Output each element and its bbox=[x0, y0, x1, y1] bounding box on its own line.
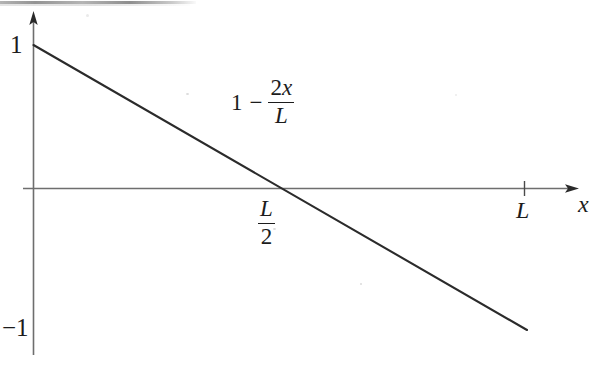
y-axis-label-one: 1 bbox=[10, 32, 23, 57]
equation-lead-term: 1 bbox=[231, 91, 243, 114]
y-axis-label-negative-one: −1 bbox=[2, 315, 29, 340]
figure-canvas: 1 −1 x L L 2 1 − 2x L bbox=[0, 0, 595, 369]
fraction-numerator-coefficient: 2 bbox=[270, 75, 282, 100]
x-tick-label-L: L bbox=[516, 198, 529, 222]
fraction-l-over-2: L 2 bbox=[258, 197, 275, 250]
fraction-denominator: L bbox=[268, 104, 294, 128]
x-axis-variable-label: x bbox=[578, 192, 589, 216]
fraction-2x-over-l: 2x L bbox=[268, 76, 294, 129]
fraction-denominator: 2 bbox=[258, 225, 275, 249]
equation-annotation: 1 − 2x L bbox=[231, 76, 294, 129]
x-intercept-label: L 2 bbox=[258, 197, 275, 250]
fraction-numerator: 2x bbox=[268, 76, 294, 100]
equation-minus-operator: − bbox=[250, 91, 263, 114]
plot-area bbox=[0, 0, 595, 369]
fraction-numerator-variable: x bbox=[282, 75, 292, 100]
fraction-numerator: L bbox=[258, 197, 275, 221]
